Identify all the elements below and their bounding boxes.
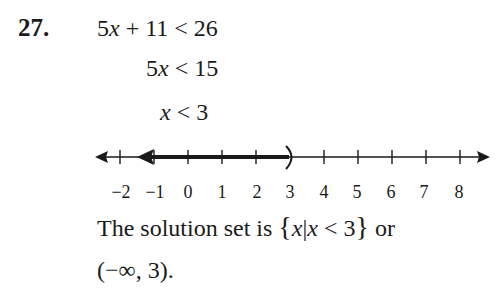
set-open-brace: { (278, 211, 291, 242)
interval-notation: (−∞, 3). (97, 257, 174, 284)
tick-label: 6 (387, 182, 396, 203)
set-cond-rest: < 3 (318, 215, 356, 241)
tick-label: 4 (320, 182, 329, 203)
solution-prefix: The solution set is (97, 215, 278, 241)
solution-sentence: The solution set is {x|x < 3} or (97, 211, 395, 243)
tick-label: 0 (184, 182, 193, 203)
set-var: x (292, 215, 303, 241)
set-close-brace: } (355, 211, 368, 242)
tick-label: 2 (253, 182, 262, 203)
tick-label: −2 (111, 182, 130, 203)
tick-label: 3 (286, 182, 295, 203)
tick-label: 7 (420, 182, 429, 203)
number-line (0, 0, 503, 304)
connector-or: or (369, 215, 395, 241)
set-cond-var: x (307, 215, 318, 241)
tick-label: 1 (218, 182, 227, 203)
tick-label: −1 (145, 182, 164, 203)
tick-label: 5 (353, 182, 362, 203)
tick-label: 8 (455, 182, 464, 203)
